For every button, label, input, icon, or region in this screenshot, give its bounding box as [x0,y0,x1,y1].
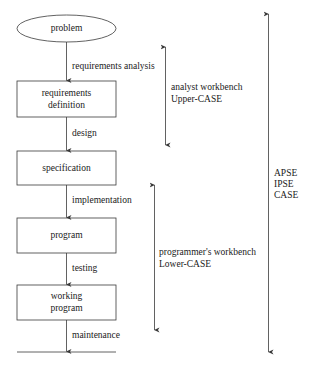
edge-label-requirements-analysis: requirements analysis [72,60,155,72]
edge-label-implementation: implementation [72,194,132,206]
node-problem-label: problem [17,22,116,34]
lower-case-line: Lower-CASE [159,258,256,270]
case-line: CASE [274,190,298,201]
edge-label-maintenance: maintenance [72,329,120,341]
programmers-workbench-line: programmer's workbench [159,246,256,258]
node-specification-label: specification [17,162,116,174]
edge-label-design: design [72,127,97,139]
upper-case-line: Upper-CASE [171,93,243,105]
span-label-analyst-workbench: analyst workbench Upper-CASE [171,81,243,105]
span-label-environment: APSE IPSE CASE [274,168,298,201]
analyst-workbench-line: analyst workbench [171,81,243,93]
ipse-line: IPSE [274,179,298,190]
apse-line: APSE [274,168,298,179]
node-program-label: program [17,229,116,241]
node-working-program-label: working program [17,290,116,314]
edge-label-testing: testing [72,262,97,274]
span-label-programmers-workbench: programmer's workbench Lower-CASE [159,246,256,270]
node-requirements-definition-label: requirements definition [17,87,116,111]
